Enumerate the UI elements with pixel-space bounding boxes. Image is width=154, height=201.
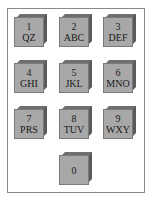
key-face[interactable]: 4 GHI [14,63,44,93]
key-bevel [89,14,92,44]
key-digit: 5 [72,67,77,78]
key-bevel [133,60,136,90]
key-bevel [89,152,92,182]
key-digit: 6 [116,67,121,78]
key-digit: 1 [27,21,32,32]
key-face[interactable]: 8 TUV [59,109,89,139]
key-bevel [133,14,136,44]
key-digit: 8 [72,113,77,124]
key-bevel [89,60,92,90]
key-6[interactable]: 6 MNO [103,60,136,93]
key-bevel [89,106,92,136]
key-face[interactable]: 0 [59,155,89,185]
key-letters: JKL [65,78,82,89]
key-digit: 4 [27,67,32,78]
key-bevel [133,106,136,136]
key-face[interactable]: 2 ABC [59,17,89,47]
key-bevel [44,14,47,44]
key-7[interactable]: 7 PRS [14,106,47,139]
key-face[interactable]: 3 DEF [103,17,133,47]
key-letters: DEF [109,32,128,43]
key-face[interactable]: 7 PRS [14,109,44,139]
key-0[interactable]: 0 [59,152,92,185]
key-digit: 2 [72,21,77,32]
key-letters: QZ [22,32,35,43]
key-3[interactable]: 3 DEF [103,14,136,47]
key-face[interactable]: 6 MNO [103,63,133,93]
key-8[interactable]: 8 TUV [59,106,92,139]
key-letters: GHI [20,78,38,89]
key-digit: 3 [116,21,121,32]
key-letters: MNO [106,78,129,89]
key-2[interactable]: 2 ABC [59,14,92,47]
key-bevel [44,106,47,136]
key-digit: 7 [27,113,32,124]
key-9[interactable]: 9 WXY [103,106,136,139]
key-bevel [44,60,47,90]
key-1[interactable]: 1 QZ [14,14,47,47]
key-letters: TUV [64,124,85,135]
key-5[interactable]: 5 JKL [59,60,92,93]
key-letters: WXY [106,124,130,135]
key-letters: ABC [64,32,85,43]
key-letters: PRS [20,124,38,135]
key-face[interactable]: 9 WXY [103,109,133,139]
key-4[interactable]: 4 GHI [14,60,47,93]
key-digit: 9 [116,113,121,124]
key-face[interactable]: 1 QZ [14,17,44,47]
key-digit: 0 [72,165,77,176]
key-face[interactable]: 5 JKL [59,63,89,93]
